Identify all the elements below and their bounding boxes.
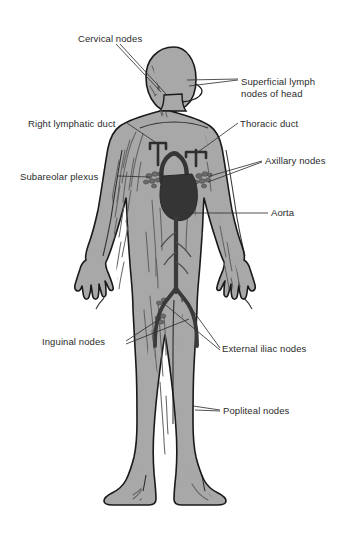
label-right-lymphatic-duct: Right lymphatic duct xyxy=(28,118,116,130)
left-hand-line xyxy=(96,298,104,309)
leader-popliteal-a xyxy=(193,406,220,410)
label-subareolar-plexus: Subareolar plexus xyxy=(20,171,98,183)
label-cervical-nodes: Cervical nodes xyxy=(78,33,142,45)
label-popliteal-nodes: Popliteal nodes xyxy=(223,405,289,417)
label-superficial-lymph-nodes-of-head: Superficial lymphnodes of head xyxy=(241,76,315,99)
body-silhouette xyxy=(75,47,256,505)
label-inguinal-nodes: Inguinal nodes xyxy=(42,336,105,348)
label-thoracic-duct: Thoracic duct xyxy=(240,118,298,130)
leader-popliteal-b xyxy=(195,410,220,411)
right-hand-line xyxy=(244,298,252,309)
neck-shape xyxy=(160,94,186,111)
label-axillary-nodes: Axillary nodes xyxy=(265,155,326,167)
label-aorta: Aorta xyxy=(271,207,294,219)
label-external-iliac-nodes: External iliac nodes xyxy=(222,343,306,355)
heart-shape xyxy=(160,174,197,221)
torso-limbs-shape xyxy=(75,111,256,505)
